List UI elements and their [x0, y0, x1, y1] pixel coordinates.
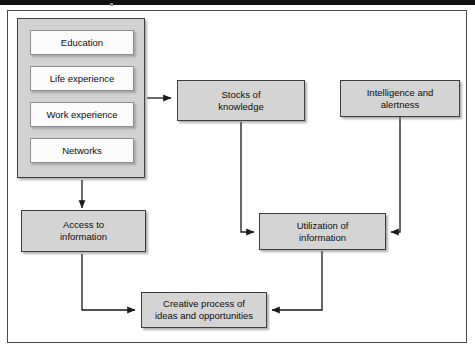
node-life-experience-label: Life experience [50, 73, 114, 85]
node-life-experience[interactable]: Life experience [30, 66, 134, 91]
node-intelligence-and-alertness-label: Intelligence and alertness [364, 87, 437, 111]
node-work-experience[interactable]: Work experience [30, 102, 134, 127]
node-access-to-information-label: Access to information [57, 219, 110, 243]
node-stocks-of-knowledge-label: Stocks of knowledge [215, 89, 266, 113]
node-creative-process-label: Creative process of ideas and opportunit… [152, 298, 256, 322]
node-networks-label: Networks [62, 145, 102, 157]
node-utilization-of-information[interactable]: Utilization of information [259, 213, 386, 250]
node-education-label: Education [61, 37, 103, 49]
node-stocks-of-knowledge[interactable]: Stocks of knowledge [177, 80, 305, 121]
node-networks[interactable]: Networks [30, 138, 134, 163]
top-bar-notch [110, 3, 113, 6]
node-creative-process[interactable]: Creative process of ideas and opportunit… [141, 292, 267, 328]
node-education[interactable]: Education [30, 30, 134, 55]
node-access-to-information[interactable]: Access to information [21, 210, 146, 252]
node-work-experience-label: Work experience [46, 109, 117, 121]
node-intelligence-and-alertness[interactable]: Intelligence and alertness [340, 80, 460, 117]
node-utilization-of-information-label: Utilization of information [294, 220, 352, 244]
personal-resources-group[interactable]: Education Life experience Work experienc… [17, 18, 145, 178]
top-black-bar [0, 0, 475, 5]
